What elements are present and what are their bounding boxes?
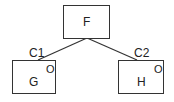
node-f-label: F <box>83 16 90 28</box>
node-g-label: G <box>29 76 38 88</box>
edge-label-c2: C2 <box>134 47 149 59</box>
node-h-marker: O <box>154 64 163 75</box>
node-h: H O <box>118 60 164 94</box>
node-g: G O <box>12 60 56 94</box>
node-h-label: H <box>137 76 146 88</box>
edge-label-c1: C1 <box>29 47 44 59</box>
node-g-marker: O <box>46 64 55 75</box>
node-f: F <box>63 5 110 39</box>
diagram-canvas: F G O H O C1 C2 <box>0 0 174 102</box>
